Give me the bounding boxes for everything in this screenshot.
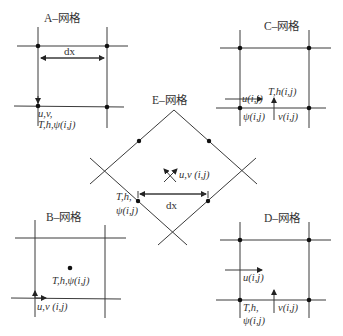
grid-e: E–网格 u,v (i,j) dx T,h, ψ(i,j) (90, 93, 257, 245)
grid-diagram: A–网格 dx u,v, T,h,ψ(i,j) C–网格 T,h(i,j) u(… (0, 0, 343, 336)
node-dot (105, 44, 110, 49)
grid-d-corner-label-2: ψ(i,j) (243, 315, 265, 327)
grid-a: A–网格 dx u,v, T,h,ψ(i,j) (14, 11, 128, 131)
dx-label: dx (166, 199, 178, 211)
grid-a-label-2: T,h,ψ(i,j) (38, 119, 76, 131)
node-dot (136, 199, 140, 203)
node-dot (206, 199, 210, 203)
grid-b-center-label: T,h,ψ(i,j) (52, 275, 90, 287)
grid-d-title: D–网格 (264, 211, 301, 224)
node-dot (307, 46, 312, 51)
node-dot (307, 298, 312, 303)
grid-b-corner-label: u,v (i,j) (37, 301, 68, 313)
grid-d: D–网格 u(i,j) v(i,j) T,h, ψ(i,j) (216, 211, 331, 327)
node-dot (307, 106, 312, 111)
node-dot (238, 106, 243, 111)
node-dot (137, 139, 141, 143)
node-dot (238, 298, 243, 303)
grid-b-title: B–网格 (46, 210, 82, 223)
node-dot (238, 46, 243, 51)
grid-c-title: C–网格 (264, 19, 300, 32)
grid-d-v-label: v(i,j) (278, 302, 299, 314)
node-dot (68, 266, 73, 271)
grid-e-corner-label-1: T,h, (116, 191, 132, 202)
node-dot (36, 44, 41, 49)
grid-b: B–网格 T,h,ψ(i,j) u,v (i,j) (11, 210, 126, 318)
grid-a-title: A–网格 (44, 11, 81, 24)
grid-c: C–网格 T,h(i,j) u(i,j) ψ(i,j) v(i,j) (216, 19, 331, 128)
dx-label: dx (64, 45, 76, 57)
grid-d-u-label: u(i,j) (243, 272, 264, 284)
grid-e-corner-label-2: ψ(i,j) (116, 205, 138, 217)
node-dot (238, 238, 243, 243)
grid-e-center-label: u,v (i,j) (179, 169, 210, 181)
grid-line (90, 110, 174, 184)
grid-d-corner-label-1: T,h, (243, 302, 259, 313)
grid-c-v-label: v(i,j) (278, 111, 299, 123)
grid-c-center-label: T,h(i,j) (268, 86, 297, 98)
grid-e-title: E–网格 (152, 93, 188, 106)
node-dot (307, 238, 312, 243)
node-dot (105, 105, 110, 110)
grid-c-u-label: u(i,j) (242, 93, 263, 105)
grid-a-label-1: u,v, (38, 108, 52, 119)
grid-c-psi-label: ψ(i,j) (243, 111, 265, 123)
node-dot (207, 139, 211, 143)
